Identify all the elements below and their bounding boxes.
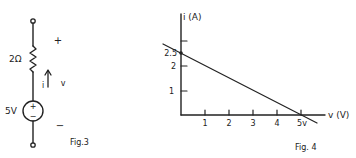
y-axis-label: i (A) [183, 12, 202, 22]
terminal-minus-label: − [56, 120, 64, 131]
current-label: i [42, 81, 44, 90]
x-axis-label: v (V) [328, 110, 349, 120]
x-tick-label-2: 2 [226, 119, 231, 128]
figure-canvas: + − 2Ω 5V i + v − Fig.3 1 2 [0, 0, 356, 158]
x-tick-label-5: 5v [297, 119, 307, 128]
y-tick-label-2: 2 [171, 62, 176, 71]
iv-characteristic-line [163, 44, 317, 123]
fig3-caption: Fig.3 [70, 138, 89, 147]
terminal-plus-label: + [54, 35, 62, 46]
fig4-caption: Fig. 4 [295, 143, 317, 152]
voltage-label: v [61, 79, 66, 88]
x-tick-label-1: 1 [202, 119, 207, 128]
circuit-diagram: + − 2Ω 5V i + v − Fig.3 [5, 19, 89, 147]
x-tick-label-4: 4 [274, 119, 279, 128]
source-label: 5V [5, 106, 18, 116]
iv-graph: 1 2 2.5 1 2 3 4 5v i (A) v (V) Fig. 4 [163, 12, 349, 152]
source-plus-sign: + [30, 102, 37, 111]
x-tick-label-3: 3 [250, 119, 255, 128]
y-tick-label-1: 1 [169, 87, 174, 96]
resistor-label: 2Ω [9, 54, 22, 64]
resistor-icon [30, 46, 36, 72]
source-minus-sign: − [30, 112, 37, 121]
intercept-dot [179, 51, 183, 55]
